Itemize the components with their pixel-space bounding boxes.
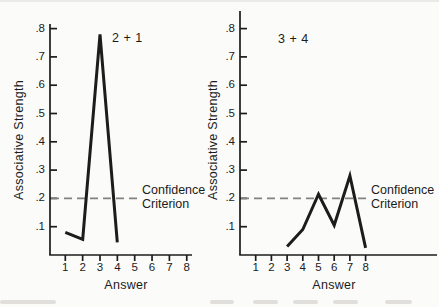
scan-artifact-bottom [210, 300, 234, 304]
scan-artifact-bottom [293, 300, 318, 304]
x-tick-label: 1 [56, 261, 74, 274]
criterion-label-line: Confidence [142, 184, 205, 198]
x-tick-label: 8 [178, 261, 196, 274]
series-line [65, 34, 117, 242]
criterion-label: ConfidenceCriterion [142, 184, 205, 211]
x-tick-label: 4 [108, 261, 126, 274]
scan-artifact-bottom [385, 300, 412, 304]
scan-artifact-bottom [253, 300, 278, 304]
y-axis-title: Associative Strength [206, 60, 220, 220]
condition-label: 2 + 1 [112, 31, 143, 45]
criterion-label: ConfidenceCriterion [371, 184, 434, 211]
scan-artifact-bottom [333, 300, 358, 304]
criterion-label-line: Confidence [371, 184, 434, 198]
x-axis-title: Answer [91, 278, 161, 292]
x-tick-label: 8 [357, 261, 375, 274]
scan-artifact-bottom [0, 300, 56, 304]
y-tick-label: .1 [13, 220, 45, 233]
x-tick-label: 7 [160, 261, 178, 274]
x-tick-label: 6 [143, 261, 161, 274]
criterion-label-line: Criterion [142, 198, 205, 212]
criterion-label-line: Criterion [371, 198, 434, 212]
condition-label: 3 + 4 [278, 32, 309, 46]
y-axis-title: Associative Strength [12, 60, 26, 220]
y-tick-label: .8 [203, 22, 235, 35]
x-tick-label: 3 [91, 261, 109, 274]
y-tick-label: .8 [13, 22, 45, 35]
series-line [287, 176, 366, 248]
x-axis-title: Answer [299, 278, 369, 292]
dual-line-chart-figure: .1.2.3.4.5.6.7.8123456782 + 1AnswerAssoc… [0, 0, 439, 307]
x-tick-label: 5 [126, 261, 144, 274]
x-tick-label: 2 [74, 261, 92, 274]
y-tick-label: .1 [203, 220, 235, 233]
